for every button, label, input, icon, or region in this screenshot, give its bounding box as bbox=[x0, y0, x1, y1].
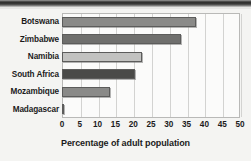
x-tick-label: 35 bbox=[182, 120, 191, 129]
category-label-row: Madagascar bbox=[0, 101, 59, 119]
category-label: South Africa bbox=[12, 70, 59, 79]
x-tick-label: 20 bbox=[129, 120, 138, 129]
bar-row bbox=[62, 101, 240, 119]
x-tick-label: 15 bbox=[111, 120, 120, 129]
x-tick-label: 0 bbox=[60, 120, 65, 129]
category-label-row: South Africa bbox=[0, 66, 59, 84]
category-label: Mozambique bbox=[10, 87, 59, 96]
category-label-row: Botswana bbox=[0, 13, 59, 31]
x-tick-label: 50 bbox=[235, 120, 244, 129]
page-top-band bbox=[0, 0, 251, 7]
category-axis-labels: BotswanaZimbabweNamibiaSouth AfricaMozam… bbox=[0, 13, 59, 118]
x-axis-title: Percentage of adult population bbox=[0, 138, 251, 148]
bar bbox=[62, 104, 64, 114]
bar-row bbox=[62, 48, 240, 66]
bar bbox=[62, 69, 135, 79]
page-top-band-edge bbox=[0, 7, 251, 9]
bar-series bbox=[62, 13, 240, 118]
category-label: Namibia bbox=[28, 52, 59, 61]
x-tick-label: 45 bbox=[218, 120, 227, 129]
gridline bbox=[241, 14, 242, 117]
bar-row bbox=[62, 66, 240, 84]
x-tick-label: 25 bbox=[146, 120, 155, 129]
category-label-row: Mozambique bbox=[0, 83, 59, 101]
category-label: Madagascar bbox=[13, 105, 59, 114]
bar bbox=[62, 87, 110, 97]
bar bbox=[62, 52, 142, 62]
bar bbox=[62, 17, 196, 27]
bar-row bbox=[62, 13, 240, 31]
x-tick-label: 5 bbox=[78, 120, 83, 129]
bar bbox=[62, 34, 181, 44]
value-axis-ticks: 05101520253035404550 bbox=[62, 120, 240, 132]
x-tick-label: 40 bbox=[200, 120, 209, 129]
bar-row bbox=[62, 83, 240, 101]
category-label: Zimbabwe bbox=[20, 35, 59, 44]
category-label-row: Namibia bbox=[0, 48, 59, 66]
category-label-row: Zimbabwe bbox=[0, 31, 59, 49]
x-tick-label: 10 bbox=[93, 120, 102, 129]
bar-row bbox=[62, 31, 240, 49]
category-label: Botswana bbox=[21, 17, 59, 26]
x-tick-label: 30 bbox=[164, 120, 173, 129]
chart-figure: BotswanaZimbabweNamibiaSouth AfricaMozam… bbox=[0, 0, 251, 161]
